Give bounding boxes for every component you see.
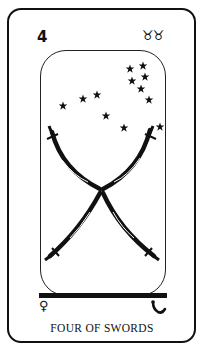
star-icon: [156, 123, 165, 131]
sword-upper-right: [103, 126, 156, 189]
base-bar: [39, 293, 167, 298]
venus-icon: ♀: [39, 299, 49, 312]
star-icon: [102, 112, 111, 120]
hebrew-letter-icon: [150, 300, 168, 316]
star-icon: [145, 96, 154, 104]
sword-upper-left: [47, 126, 100, 189]
star-icon: [120, 124, 129, 132]
star-icon: [59, 102, 68, 110]
star-icon: [93, 91, 102, 99]
star-icon: [141, 73, 150, 81]
card-title: FOUR OF SWORDS: [0, 322, 204, 334]
star-icon: [139, 62, 148, 70]
star-cluster: [59, 62, 165, 132]
star-icon: [126, 65, 135, 73]
sword-lower-left: [45, 193, 100, 260]
star-icon: [79, 95, 88, 103]
illustration: [0, 0, 204, 352]
star-icon: [137, 85, 146, 93]
sword-lower-right: [103, 193, 159, 260]
star-icon: [128, 77, 137, 85]
